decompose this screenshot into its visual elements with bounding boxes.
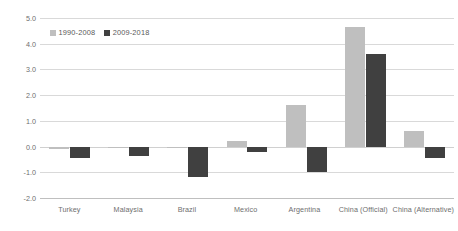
- legend-swatch-0: [50, 30, 56, 36]
- bar[interactable]: [108, 147, 128, 148]
- chart-legend: 1990-2008 2009-2018: [50, 28, 149, 37]
- bar-group: [336, 18, 395, 198]
- bar-group: [277, 18, 336, 198]
- gridline--2.0: [40, 198, 454, 199]
- x-tick-label: Brazil: [158, 205, 217, 214]
- bar[interactable]: [49, 147, 69, 150]
- y-tick-label-4.0: 4.0: [0, 39, 36, 48]
- y-tick-label-3.0: 3.0: [0, 65, 36, 74]
- legend-label-1: 2009-2018: [113, 28, 150, 37]
- legend-entry-0[interactable]: 1990-2008: [50, 28, 95, 37]
- y-tick-label-2.0: 2.0: [0, 91, 36, 100]
- y-tick-label-0.0: 0.0: [0, 142, 36, 151]
- bar[interactable]: [70, 147, 90, 159]
- x-tick-label: Argentina: [275, 205, 334, 214]
- bar[interactable]: [227, 141, 247, 146]
- y-tick-label--2.0: -2.0: [0, 194, 36, 203]
- bar[interactable]: [425, 147, 445, 159]
- y-tick-label-5.0: 5.0: [0, 14, 36, 23]
- bar[interactable]: [307, 147, 327, 173]
- legend-swatch-1: [104, 30, 110, 36]
- bar[interactable]: [247, 147, 267, 152]
- x-axis-category-labels: TurkeyMalaysiaBrazilMexicoArgentinaChina…: [40, 205, 454, 214]
- bar[interactable]: [188, 147, 208, 178]
- bar[interactable]: [286, 105, 306, 146]
- bar[interactable]: [366, 54, 386, 147]
- bar[interactable]: [404, 131, 424, 146]
- x-tick-label: Turkey: [40, 205, 99, 214]
- bar[interactable]: [345, 27, 365, 147]
- bar-group: [217, 18, 276, 198]
- x-tick-label: China (Official): [334, 205, 393, 214]
- legend-label-0: 1990-2008: [59, 28, 96, 37]
- bar-group: [40, 18, 99, 198]
- bar-groups: [40, 18, 454, 198]
- y-tick-label-1.0: 1.0: [0, 116, 36, 125]
- x-tick-label: Mexico: [216, 205, 275, 214]
- legend-entry-1[interactable]: 2009-2018: [104, 28, 149, 37]
- bar[interactable]: [167, 147, 187, 148]
- bar-group: [99, 18, 158, 198]
- bar-chart: 5.04.03.02.01.00.0-1.0-2.0 1990-2008 200…: [0, 0, 458, 231]
- y-tick-label--1.0: -1.0: [0, 168, 36, 177]
- x-tick-label: Malaysia: [99, 205, 158, 214]
- x-tick-label: China (Alternative): [393, 205, 454, 214]
- bar-group: [158, 18, 217, 198]
- bar-group: [395, 18, 454, 198]
- bar[interactable]: [129, 147, 149, 156]
- plot-area: [40, 18, 454, 198]
